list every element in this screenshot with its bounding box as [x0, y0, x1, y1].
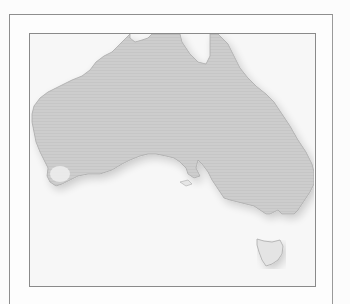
map-frame	[29, 33, 316, 287]
sw-highlight	[50, 166, 70, 182]
australia-map	[30, 34, 314, 285]
mainland-australia	[32, 34, 314, 214]
map-caption: — — — — — — — — —	[30, 294, 350, 304]
kangaroo-island	[180, 180, 192, 186]
map-card-page: — — — — — — — — —	[0, 0, 350, 304]
tasmania	[257, 239, 283, 266]
